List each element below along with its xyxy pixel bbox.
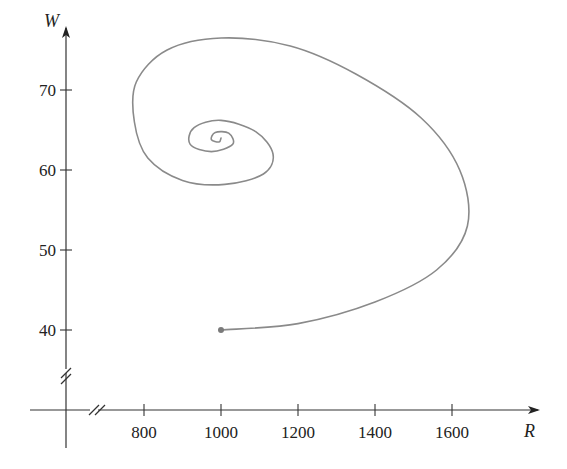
y-tick-label: 70 <box>39 81 56 100</box>
x-tick-label: 1400 <box>358 423 392 442</box>
y-axis-label: W <box>44 11 61 31</box>
x-axis-label: R <box>523 421 535 441</box>
y-tick-label: 60 <box>39 161 56 180</box>
spiral-trajectory <box>133 38 469 330</box>
y-ticks: 40506070 <box>39 81 72 340</box>
y-axis: 40506070 W <box>39 11 72 448</box>
y-tick-label: 40 <box>39 321 56 340</box>
x-tick-label: 1200 <box>281 423 315 442</box>
x-tick-label: 1000 <box>204 423 238 442</box>
x-tick-label: 1600 <box>435 423 469 442</box>
phase-plot: 40506070 W 8001000120014001600 R <box>0 0 567 469</box>
y-tick-label: 50 <box>39 241 56 260</box>
x-axis: 8001000120014001600 R <box>30 404 538 442</box>
x-tick-label: 800 <box>131 423 157 442</box>
start-point-marker <box>218 327 224 333</box>
